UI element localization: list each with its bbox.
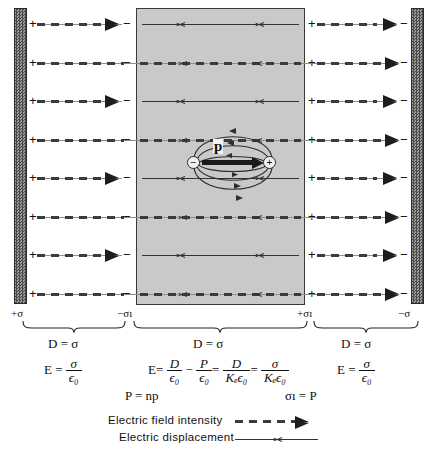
slab-right-sign-0: + [308,19,316,28]
right-gap-displacement: D = σ [341,336,371,352]
slab-left-sign-2: − [123,96,131,105]
left-plate-sign-3: + [29,135,37,144]
left-gap-field-numerator: σ [66,357,82,370]
left-plate-sign-2: + [29,96,37,105]
field-row-segmented: +−−+ [0,20,437,29]
right-plate-sign-7: − [400,289,408,298]
figure-canvas: +−−++−−++−−++−−++−−++−−++−−++−−+ − + [0,0,437,451]
e-arrowhead-3 [385,134,399,147]
right-gap-field-equation: E = σ ϵ₀ [337,357,375,385]
d-arrowhead-slab2-7 [253,290,262,299]
e-dash-left-5 [37,216,124,219]
left-gap-field-equation: E = σ ϵ₀ [44,357,82,385]
term1-denominator: ϵ₀ [167,370,183,385]
field-row-segmented: +−−+ [0,97,437,106]
e-dash-right-2 [317,100,377,103]
right-plate-sign-3: − [400,135,408,144]
e-dash-left-4 [37,177,102,180]
term3-numerator: D [223,357,251,370]
dipole-positive-charge: + [263,156,276,169]
d-arrowhead-slab-7 [178,290,187,299]
e-dash-right-4 [317,177,377,180]
dipole-moment-arrowhead [252,157,264,169]
term4-numerator: σ [261,357,289,370]
slab-left-sign-4: − [123,173,131,182]
dielectric-term-P-over-eps: P ϵ₀ [196,357,212,385]
e-arrowhead-5 [385,211,399,224]
d-arrowhead-slab-1 [178,59,187,68]
term2-numerator: P [196,357,212,370]
e-arrowhead-left-2 [105,95,119,108]
term3-eps: ϵ₀ [238,370,248,385]
slab-left-sign-0: − [123,19,131,28]
legend-e-field-label: Electric field intensity [108,414,223,426]
dielectric-term-sigma-over-Keeps: σ Kₑϵ₀ [261,357,289,385]
d-arrowhead-slab-2 [176,97,185,106]
dielectric-term-D-over-eps: D ϵ₀ [167,357,183,385]
e-dash-left-2 [37,100,102,103]
right-plate-sign-0: − [400,19,408,28]
e-dash-left-6 [37,254,102,257]
e-arrowhead-right-4 [383,172,397,185]
e-dash-right-6 [317,254,377,257]
slab-right-charge-label: +σı [297,307,312,319]
left-plate-sign-5: + [29,212,37,221]
term4-denominator: Kₑϵ₀ [261,370,289,385]
term2-denominator: ϵ₀ [196,370,212,385]
d-line-slab-0 [142,24,299,25]
left-plate-sign-1: + [29,58,37,67]
slab-left-sign-6: − [123,250,131,259]
polarization-definition: P = np [125,388,159,404]
right-gap-field-denominator: ϵ₀ [359,370,375,385]
dipole-negative-sign: − [191,157,197,168]
d-arrowhead-slab2-6 [255,251,264,260]
term4-Ke: Kₑ [264,370,276,385]
right-plate-sign-4: − [400,173,408,182]
e-dash-slab-1 [140,62,301,65]
dipole-negative-charge: − [187,156,200,169]
e-arrowhead-right-0 [383,18,397,31]
left-plate-sign-0: + [29,19,37,28]
right-gap-field-fraction: σ ϵ₀ [359,357,375,385]
left-plate-charge-label: +σ [11,307,23,319]
dipole-positive-sign: + [267,157,273,168]
left-gap-field-denominator: ϵ₀ [66,370,82,385]
left-gap-field-lead: E = [44,362,63,377]
brace-right-gap [313,320,419,333]
d-arrowhead-slab2-0 [255,20,264,29]
left-plate-sign-4: + [29,173,37,182]
right-plate-sign-6: − [400,250,408,259]
e-arrowhead-7 [385,288,399,301]
term3-Ke: Kₑ [226,370,238,385]
brace-left-gap [22,320,126,333]
slab-right-sign-2: + [308,96,316,105]
term4-eps: ϵ₀ [276,370,286,385]
right-plate-charge-label: −σ [398,307,410,319]
d-arrowhead-slab-0 [176,20,185,29]
e-dash-left-0 [37,23,102,26]
left-plate-sign-6: + [29,250,37,259]
dielectric-field-equation: E= D ϵ₀ − P ϵ₀ = D Kₑϵ₀ = σ Kₑϵ₀ [148,357,289,385]
right-plate-sign-2: − [400,96,408,105]
right-gap-field-lead: E = [337,362,356,377]
slab-right-sign-6: + [308,250,316,259]
field-row-segmented: +−−+ [0,251,437,260]
d-line-slab-6 [142,255,299,256]
d-arrowhead-slab2-2 [255,97,264,106]
e-dash-left-7 [37,293,124,296]
e-arrowhead-1 [385,57,399,70]
e-dash-left-3 [37,139,124,142]
left-gap-field-fraction: σ ϵ₀ [66,357,82,385]
dielectric-eq-minus: − [186,362,193,377]
dielectric-term-D-over-Keeps: D Kₑϵ₀ [223,357,251,385]
slab-left-charge-label: −σı [117,307,132,319]
e-dash-right-0 [317,23,377,26]
d-arrowhead-slab-6 [176,251,185,260]
d-line-slab-2 [142,101,299,102]
dipole-moment-arrow [202,160,254,165]
term3-denominator: Kₑϵ₀ [223,370,251,385]
e-arrowhead-left-6 [105,249,119,262]
e-arrowhead-right-2 [383,95,397,108]
dielectric-eq-E: E [148,362,156,377]
dielectric-displacement: D = σ [193,336,223,352]
